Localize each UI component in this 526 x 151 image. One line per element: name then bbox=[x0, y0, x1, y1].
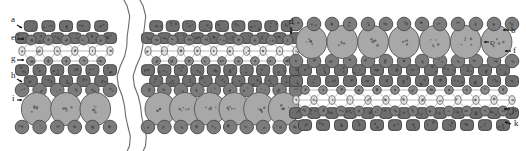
atom-speckle bbox=[170, 60, 173, 63]
atom-speckle bbox=[428, 110, 431, 113]
atom-speckle bbox=[431, 67, 433, 69]
label-text-a: a bbox=[11, 14, 15, 24]
atom-medium-circle-row bbox=[79, 35, 89, 45]
atom-speckle bbox=[384, 98, 387, 101]
atom-speckle bbox=[258, 28, 260, 30]
atom-speckle bbox=[314, 24, 316, 26]
atom-speckle bbox=[354, 72, 356, 74]
atom-medium-circle-row bbox=[26, 35, 36, 45]
atom-speckle bbox=[457, 80, 459, 82]
atom-speckle bbox=[504, 110, 506, 112]
atom-lower-square-row bbox=[16, 65, 29, 76]
atom-top-square-row bbox=[42, 21, 55, 32]
atom-speckle bbox=[25, 71, 27, 73]
atom-lower-square-row bbox=[207, 65, 220, 76]
atom-speckle bbox=[323, 67, 325, 69]
atom-medium-circle-row bbox=[354, 106, 364, 116]
atom-small-circle-row bbox=[168, 57, 177, 66]
atom-small-circle-row bbox=[79, 57, 88, 66]
label-text-h: h bbox=[11, 70, 16, 80]
atom-light-ellipse-row bbox=[37, 47, 43, 56]
atom-speckle bbox=[485, 70, 488, 73]
atom-medium-circle-row bbox=[217, 35, 227, 45]
atom-square bbox=[166, 21, 179, 32]
atom-speckle bbox=[214, 127, 216, 129]
atom-speckle bbox=[405, 40, 407, 42]
atom-medium-circle-row bbox=[372, 106, 382, 116]
atom-speckle bbox=[173, 83, 175, 85]
atom-top-square-row bbox=[443, 120, 456, 131]
atom-speckle bbox=[286, 60, 288, 62]
atom-speckle bbox=[17, 34, 19, 36]
atom-speckle bbox=[227, 125, 230, 128]
atom-speckle bbox=[293, 125, 296, 128]
atom-speckle bbox=[247, 87, 248, 88]
atom-speckle bbox=[279, 50, 281, 52]
atom-speckle bbox=[203, 29, 205, 31]
atom-speckle bbox=[219, 28, 221, 30]
atom-speckle bbox=[282, 67, 284, 69]
atom-lower-square-row bbox=[174, 65, 187, 76]
atom-small-circle-row bbox=[463, 86, 472, 95]
atom-speckle bbox=[66, 82, 69, 85]
atom-speckle bbox=[297, 80, 298, 81]
atom-top-square-row bbox=[497, 120, 510, 131]
atom-speckle bbox=[501, 124, 504, 127]
atom-speckle bbox=[357, 121, 359, 123]
atom-speckle bbox=[420, 21, 423, 24]
atom-speckle bbox=[327, 81, 329, 83]
atom-speckle bbox=[295, 98, 297, 100]
atom-speckle bbox=[496, 38, 498, 40]
atom-small-circle-row bbox=[409, 86, 418, 95]
atom-speckle bbox=[302, 109, 305, 112]
row-layer-e bbox=[151, 35, 293, 45]
atom-speckle bbox=[297, 22, 299, 24]
atom-speckle bbox=[359, 69, 360, 70]
atom-speckle bbox=[311, 43, 313, 45]
atom-lower-square-row bbox=[380, 76, 393, 87]
atom-speckle bbox=[368, 98, 370, 100]
atom-medium-circle-row bbox=[300, 106, 310, 116]
atom-speckle bbox=[265, 89, 267, 91]
atom-speckle bbox=[427, 124, 429, 126]
atom-speckle bbox=[498, 42, 500, 44]
atom-small-circle-row bbox=[97, 57, 106, 66]
section-left-panel bbox=[15, 21, 117, 134]
atom-speckle bbox=[385, 23, 388, 26]
atom-speckle bbox=[223, 81, 225, 83]
atom-speckle bbox=[485, 88, 487, 90]
atom-speckle bbox=[39, 71, 41, 73]
atom-speckle bbox=[182, 66, 184, 68]
atom-speckle bbox=[260, 68, 263, 71]
atom-speckle bbox=[295, 69, 297, 71]
atom-speckle bbox=[483, 110, 485, 112]
atom-speckle bbox=[466, 89, 468, 91]
row-layer-a bbox=[24, 21, 107, 32]
atom-speckle bbox=[502, 110, 504, 112]
atom-speckle bbox=[66, 28, 68, 30]
atom-speckle bbox=[260, 109, 262, 111]
atom-speckle bbox=[93, 105, 95, 107]
atom-speckle bbox=[464, 39, 466, 41]
atom-speckle bbox=[437, 43, 440, 46]
atom-speckle bbox=[188, 108, 190, 110]
atom-speckle bbox=[288, 107, 289, 108]
atom-circle bbox=[217, 35, 227, 45]
atom-speckle bbox=[214, 70, 216, 72]
atom-speckle bbox=[404, 21, 406, 23]
atom-speckle bbox=[215, 106, 217, 108]
atom-speckle bbox=[350, 112, 352, 114]
atom-speckle bbox=[365, 80, 367, 82]
atom-speckle bbox=[403, 60, 405, 62]
atom-speckle bbox=[275, 23, 277, 25]
atom-light-ellipse-row bbox=[211, 47, 217, 56]
atom-speckle bbox=[453, 69, 455, 71]
atom-circle bbox=[343, 17, 357, 31]
atom-speckle bbox=[169, 82, 172, 85]
atom-speckle bbox=[311, 81, 313, 83]
atom-speckle bbox=[376, 44, 379, 47]
atom-square bbox=[240, 65, 253, 76]
atom-speckle bbox=[183, 34, 185, 36]
atom-speckle bbox=[511, 60, 513, 62]
atom-top-square-row bbox=[199, 21, 212, 32]
